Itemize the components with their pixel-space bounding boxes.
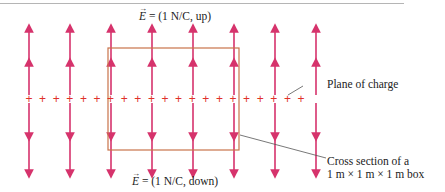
positive-charge: + xyxy=(257,92,264,106)
e-vector-symbol: E xyxy=(139,10,146,22)
positive-charge: + xyxy=(107,92,114,106)
positive-charge: + xyxy=(202,92,209,106)
positive-charge: + xyxy=(39,92,46,106)
positive-charge: + xyxy=(25,92,32,106)
positive-charge: + xyxy=(66,92,73,106)
bottom-field-label: E = (1 N/C, down) xyxy=(132,175,218,188)
positive-charge: + xyxy=(121,92,128,106)
positive-charge: + xyxy=(161,92,168,106)
box-leader-line xyxy=(240,135,326,158)
positive-charge: + xyxy=(270,92,277,106)
positive-charge: + xyxy=(243,92,250,106)
positive-charge: + xyxy=(297,92,304,106)
e-vector-symbol: E xyxy=(132,175,139,187)
positive-charge: + xyxy=(53,92,60,106)
plane-of-charge: +++++++++++++++++++++ xyxy=(25,92,304,106)
positive-charge: + xyxy=(175,92,182,106)
plane-of-charge-label: Plane of charge xyxy=(327,78,398,91)
box-label: Cross section of a 1 m × 1 m × 1 m box xyxy=(327,155,424,181)
top-field-label: E = (1 N/C, up) xyxy=(139,10,211,23)
positive-charge: + xyxy=(80,92,87,106)
positive-charge: + xyxy=(189,92,196,106)
positive-charge: + xyxy=(148,92,155,106)
positive-charge: + xyxy=(93,92,100,106)
positive-charge: + xyxy=(216,92,223,106)
positive-charge: + xyxy=(134,92,141,106)
positive-charge: + xyxy=(229,92,236,106)
